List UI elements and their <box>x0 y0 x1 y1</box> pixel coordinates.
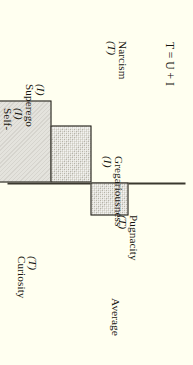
formula-annotation: T = U + I <box>163 42 176 86</box>
bar-name-pugnacity: Pugnacity <box>128 215 139 261</box>
bar-label-curiosity: (T) Curiosity <box>15 256 38 299</box>
axis-label-average: Average <box>110 298 122 336</box>
bar-superego <box>50 125 91 182</box>
bar-code-narcism: (T) <box>105 41 116 80</box>
bar-label-gregariousness: Gregariousness (I) <box>101 156 124 226</box>
bar-code-curiosity: (T) <box>27 256 38 299</box>
bar-name-self-sentiment-line2: sentiment <box>0 108 1 152</box>
bar-code-gregariousness: (I) <box>101 156 112 226</box>
bar-code-superego: (I) <box>35 84 46 127</box>
bar-name-superego: Superego <box>23 84 34 127</box>
bar-name-narcism: Narcism <box>117 41 128 80</box>
bar-name-gregariousness: Gregariousness <box>113 156 124 226</box>
bar-name-self-sentiment-line1: Self- <box>1 108 12 152</box>
bar-label-superego: (I) Superego <box>23 84 46 127</box>
bar-name-curiosity: Curiosity <box>15 256 26 299</box>
bar-label-narcism: Narcism (T) <box>105 41 128 80</box>
bar-label-self-sentiment: (I) Self- sentiment <box>0 108 24 152</box>
